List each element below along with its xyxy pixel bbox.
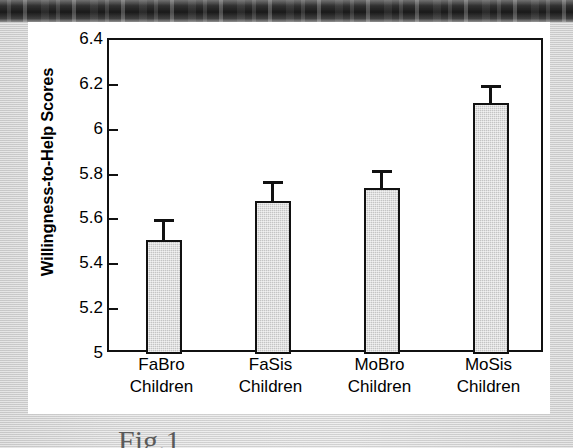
- x-axis-label-line2: Children: [325, 376, 434, 398]
- plot-area: [109, 40, 541, 350]
- y-axis-tick-mark: [109, 129, 118, 131]
- error-bar-stem: [271, 181, 274, 201]
- scanned-page: Willingness-to-Help Scores 6.46.265.85.6…: [0, 0, 573, 448]
- error-bar-cap: [481, 85, 501, 88]
- x-axis-category-label: FaSisChildren: [216, 354, 325, 398]
- figure-panel: Willingness-to-Help Scores 6.46.265.85.6…: [28, 22, 550, 414]
- y-axis-tick-mark: [109, 84, 118, 86]
- y-axis-tick-label: 5.4: [49, 254, 103, 271]
- y-axis-tick-label: 6.2: [49, 74, 103, 91]
- error-bar-stem: [162, 219, 165, 239]
- y-axis-tick-label: 6: [49, 119, 103, 136]
- x-axis-category-label: MoBroChildren: [325, 354, 434, 398]
- figure-caption-remnant: Fig.1: [118, 426, 238, 448]
- x-axis-label-line1: MoSis: [434, 354, 543, 376]
- error-bar-cap: [372, 170, 392, 173]
- bar: [473, 103, 509, 354]
- scan-artifact-band: [0, 0, 573, 22]
- x-axis-category-label: FaBroChildren: [107, 354, 216, 398]
- y-axis-tick-label: 5: [49, 344, 103, 361]
- x-axis-label-line2: Children: [107, 376, 216, 398]
- y-axis-tick-mark: [109, 218, 118, 220]
- x-axis-label-line1: MoBro: [325, 354, 434, 376]
- y-axis-tick-label: 5.2: [49, 299, 103, 316]
- y-axis-tick-mark: [109, 308, 118, 310]
- y-axis-tick-mark: [109, 263, 118, 265]
- x-axis-label-line1: FaBro: [107, 354, 216, 376]
- bar: [255, 201, 291, 354]
- bar: [364, 188, 400, 354]
- bar: [146, 240, 182, 354]
- y-axis-tick-label: 5.6: [49, 209, 103, 226]
- error-bar-cap: [263, 181, 283, 184]
- y-axis-tick-labels: 6.46.265.85.65.45.25: [45, 38, 103, 352]
- x-axis-label-line2: Children: [434, 376, 543, 398]
- y-axis-tick-mark: [109, 174, 118, 176]
- x-axis-category-labels: FaBroChildrenFaSisChildrenMoBroChildrenM…: [107, 354, 543, 408]
- y-axis-tick-label: 5.8: [49, 164, 103, 181]
- y-axis-tick-label: 6.4: [49, 30, 103, 47]
- x-axis-label-line2: Children: [216, 376, 325, 398]
- x-axis-label-line1: FaSis: [216, 354, 325, 376]
- x-axis-category-label: MoSisChildren: [434, 354, 543, 398]
- plot-frame: [107, 38, 543, 352]
- error-bar-cap: [154, 219, 174, 222]
